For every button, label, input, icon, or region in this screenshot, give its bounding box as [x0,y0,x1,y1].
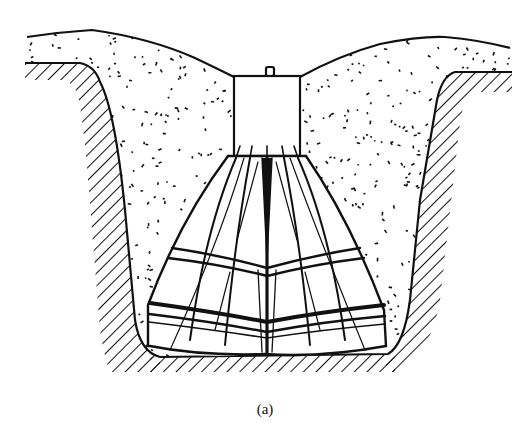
figure-caption: (a) [257,401,274,418]
column [234,67,300,156]
trench-cross-section-diagram: (a) [0,0,531,437]
column-lug [266,67,274,76]
flared-skirt-base [148,146,386,356]
ground-left-hatched [25,63,160,372]
